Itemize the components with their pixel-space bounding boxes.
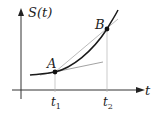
tick-label-t1: t1 bbox=[51, 95, 61, 111]
point-b bbox=[105, 27, 110, 32]
point-a-label: A bbox=[46, 56, 56, 71]
diagram-canvas: S(t) t A B t1 t2 bbox=[0, 0, 154, 118]
y-axis-arrow-icon bbox=[18, 8, 24, 16]
x-axis-label: t bbox=[145, 83, 151, 98]
x-axis-arrow-icon bbox=[136, 87, 145, 93]
tick-label-t2: t2 bbox=[103, 95, 113, 111]
tick-t2-sub: 2 bbox=[108, 102, 113, 111]
y-axis-label: S(t) bbox=[28, 5, 52, 20]
point-b-label: B bbox=[94, 17, 105, 32]
tick-t1-sub: 1 bbox=[56, 102, 61, 111]
